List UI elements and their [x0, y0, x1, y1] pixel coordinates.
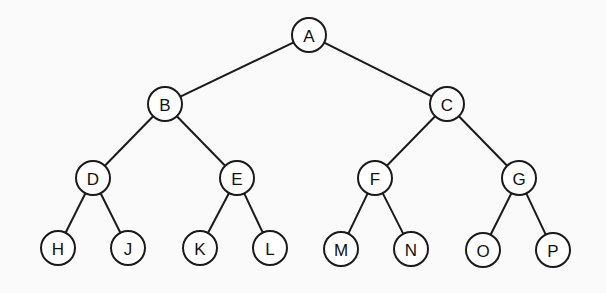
tree-nodes: ABCDEFGHJKLMNOP	[41, 18, 570, 267]
edge-c-f	[387, 116, 435, 166]
tree-node-o: O	[466, 233, 500, 267]
tree-node-m: M	[324, 232, 358, 266]
node-label: G	[512, 170, 525, 189]
tree-edges	[66, 42, 546, 234]
tree-node-h: H	[41, 231, 75, 265]
node-label: O	[476, 242, 489, 261]
node-label: M	[334, 241, 348, 260]
node-label: K	[194, 240, 206, 259]
tree-node-e: E	[220, 161, 254, 195]
edge-b-e	[177, 116, 225, 166]
node-label: E	[231, 170, 242, 189]
tree-node-p: P	[536, 233, 570, 267]
edge-g-p	[526, 193, 545, 234]
tree-node-a: A	[292, 18, 326, 52]
edge-c-g	[459, 116, 507, 166]
tree-diagram: ABCDEFGHJKLMNOP	[0, 0, 606, 293]
tree-node-k: K	[183, 231, 217, 265]
tree-node-g: G	[502, 161, 536, 195]
tree-node-l: L	[253, 231, 287, 265]
tree-node-f: F	[358, 161, 392, 195]
tree-node-n: N	[394, 232, 428, 266]
node-label: P	[547, 242, 558, 261]
tree-node-b: B	[148, 87, 182, 121]
tree-node-c: C	[430, 87, 464, 121]
node-label: B	[159, 96, 170, 115]
tree-node-d: D	[76, 161, 110, 195]
node-label: H	[52, 240, 64, 259]
edge-b-d	[105, 116, 153, 166]
edge-g-o	[491, 193, 512, 235]
node-label: A	[303, 27, 315, 46]
tree-node-j: J	[111, 231, 145, 265]
node-label: D	[87, 170, 99, 189]
edge-a-c	[324, 43, 432, 97]
edge-e-k	[208, 193, 229, 233]
edge-f-m	[348, 193, 367, 233]
edge-f-n	[383, 193, 404, 234]
edge-e-l	[244, 193, 263, 232]
node-label: F	[370, 170, 380, 189]
node-label: C	[441, 96, 453, 115]
node-label: N	[405, 241, 417, 260]
edge-d-h	[66, 193, 86, 233]
edge-d-j	[101, 193, 121, 233]
node-label: L	[265, 240, 274, 259]
node-label: J	[124, 240, 133, 259]
edge-a-b	[180, 42, 293, 96]
